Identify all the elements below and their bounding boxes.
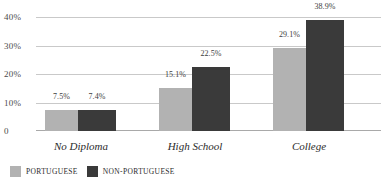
plot-area: 7.5% 7.4% 15.1% 22.5% 29.1% 38.9% — [36, 17, 381, 131]
legend-swatch-portuguese-icon — [10, 166, 21, 177]
bar-portuguese-high-school[interactable] — [159, 88, 192, 131]
bar-portuguese-college[interactable] — [273, 48, 306, 131]
bar-label-portuguese-college: 29.1% — [279, 30, 300, 39]
bar-label-portuguese-high-school: 15.1% — [165, 70, 186, 79]
legend: PORTUGUESE NON-PORTUGUESE — [10, 166, 175, 177]
legend-label-portuguese: PORTUGUESE — [26, 167, 78, 176]
y-axis-tick-20: 20% — [4, 69, 21, 79]
x-axis-label-no-diploma: No Diploma — [54, 140, 108, 152]
bar-label-non-portuguese-high-school: 22.5% — [200, 49, 221, 58]
bar-label-portuguese-no-diploma: 7.5% — [53, 92, 70, 101]
bar-non-portuguese-no-diploma[interactable] — [78, 110, 116, 131]
y-axis-tick-40: 40% — [4, 12, 21, 22]
legend-item-portuguese[interactable]: PORTUGUESE — [10, 166, 78, 177]
bar-portuguese-no-diploma[interactable] — [45, 110, 78, 131]
bar-label-non-portuguese-no-diploma: 7.4% — [88, 92, 105, 101]
bar-group-high-school: 15.1% 22.5% — [159, 17, 230, 131]
legend-swatch-non-portuguese-icon — [87, 166, 98, 177]
bar-non-portuguese-college[interactable] — [306, 20, 344, 131]
bar-non-portuguese-high-school[interactable] — [192, 67, 230, 131]
y-axis-tick-0: 0 — [4, 126, 9, 136]
legend-item-non-portuguese[interactable]: NON-PORTUGUESE — [87, 166, 175, 177]
legend-label-non-portuguese: NON-PORTUGUESE — [103, 167, 175, 176]
bar-chart: 40% 30% 20% 10% 0 7.5% 7.4% 15.1% 22.5% — [0, 0, 385, 189]
y-axis-tick-30: 30% — [4, 41, 21, 51]
bar-group-college: 29.1% 38.9% — [273, 17, 344, 131]
bar-group-no-diploma: 7.5% 7.4% — [45, 17, 116, 131]
x-axis-label-college: College — [292, 140, 326, 152]
x-axis-label-high-school: High School — [168, 140, 223, 152]
bar-label-non-portuguese-college: 38.9% — [314, 2, 335, 11]
y-axis-tick-10: 10% — [4, 98, 21, 108]
